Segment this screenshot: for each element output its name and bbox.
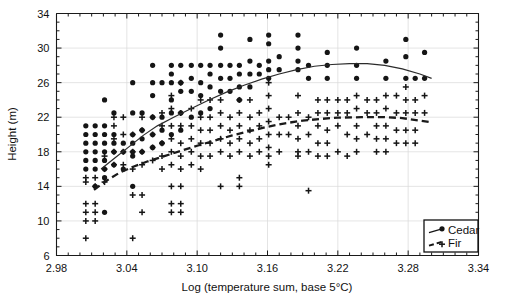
data-point-cedar	[247, 84, 252, 89]
data-point-cedar	[83, 166, 88, 171]
y-tick-label: 14	[37, 180, 49, 192]
data-point-cedar	[150, 80, 155, 85]
data-point-cedar	[383, 58, 388, 63]
data-point-cedar	[150, 63, 155, 68]
legend[interactable]: CedarFir	[424, 220, 479, 252]
data-point-cedar	[83, 123, 88, 128]
x-axis-title: Log (temperature sum, base 5°C)	[182, 281, 353, 293]
data-point-cedar	[422, 50, 427, 55]
y-tick-label: 6	[43, 250, 49, 262]
data-point-cedar	[227, 63, 232, 68]
data-point-cedar	[102, 123, 107, 128]
data-point-cedar	[237, 71, 242, 76]
data-point-cedar	[266, 58, 271, 63]
data-point-cedar	[325, 50, 330, 55]
data-point-cedar	[189, 115, 194, 120]
data-point-cedar	[266, 33, 271, 38]
y-tick-label: 26	[37, 77, 49, 89]
data-point-cedar	[306, 76, 311, 81]
data-point-cedar	[295, 33, 300, 38]
data-point-cedar	[266, 41, 271, 46]
legend-label-cedar: Cedar	[448, 224, 479, 236]
data-point-cedar	[83, 158, 88, 163]
y-tick-label: 10	[37, 215, 49, 227]
data-point-cedar	[354, 45, 359, 50]
data-point-cedar	[325, 76, 330, 81]
data-point-cedar	[93, 141, 98, 146]
data-point-cedar	[383, 76, 388, 81]
data-point-cedar	[207, 106, 212, 111]
data-point-cedar	[189, 89, 194, 94]
data-point-cedar	[218, 76, 223, 81]
data-point-cedar	[403, 37, 408, 42]
data-point-cedar	[295, 58, 300, 63]
data-point-cedar	[169, 80, 174, 85]
data-point-cedar	[257, 63, 262, 68]
data-point-cedar	[178, 89, 183, 94]
data-point-cedar	[207, 84, 212, 89]
data-point-cedar	[295, 45, 300, 50]
data-point-cedar	[198, 63, 203, 68]
data-point-cedar	[178, 63, 183, 68]
x-tick-label: 3.16	[257, 262, 278, 274]
x-tick-label: 3.22	[327, 262, 348, 274]
data-point-cedar	[150, 93, 155, 98]
data-point-cedar	[207, 71, 212, 76]
data-point-cedar	[277, 67, 282, 72]
data-point-cedar	[130, 110, 135, 115]
data-point-cedar	[169, 71, 174, 76]
y-tick-label: 34	[37, 8, 49, 20]
data-point-cedar	[257, 71, 262, 76]
data-point-cedar	[93, 123, 98, 128]
legend-label-fir: Fir	[448, 237, 462, 249]
x-tick-label: 3.34	[468, 262, 489, 274]
plot-background	[0, 0, 514, 302]
data-point-cedar	[266, 67, 271, 72]
data-point-cedar	[102, 97, 107, 102]
data-point-cedar	[277, 54, 282, 59]
data-point-cedar	[93, 149, 98, 154]
data-point-cedar	[218, 89, 223, 94]
data-point-cedar	[93, 132, 98, 137]
data-point-cedar	[354, 76, 359, 81]
x-tick-label: 2.98	[46, 262, 67, 274]
x-tick-label: 3.04	[116, 262, 137, 274]
y-tick-label: 30	[37, 42, 49, 54]
data-point-cedar	[247, 37, 252, 42]
y-tick-label: 18	[37, 146, 49, 158]
data-point-cedar	[198, 80, 203, 85]
legend-marker-cedar	[439, 226, 444, 231]
data-point-cedar	[247, 71, 252, 76]
data-point-cedar	[218, 45, 223, 50]
data-point-cedar	[102, 141, 107, 146]
data-point-cedar	[130, 184, 135, 189]
data-point-cedar	[218, 33, 223, 38]
data-point-cedar	[189, 63, 194, 68]
data-point-cedar	[102, 210, 107, 215]
data-point-cedar	[83, 141, 88, 146]
data-point-cedar	[83, 149, 88, 154]
x-tick-label: 3.28	[397, 262, 418, 274]
data-point-cedar	[102, 132, 107, 137]
chart-root: 2.983.043.103.163.223.283.34610141822263…	[0, 0, 514, 302]
x-tick-label: 3.10	[186, 262, 207, 274]
data-point-cedar	[189, 76, 194, 81]
scatter-plot: 2.983.043.103.163.223.283.34610141822263…	[0, 0, 514, 302]
data-point-cedar	[218, 63, 223, 68]
data-point-cedar	[403, 76, 408, 81]
data-point-cedar	[130, 80, 135, 85]
data-point-cedar	[413, 76, 418, 81]
y-axis-title: Height (m)	[6, 107, 18, 161]
data-point-cedar	[237, 63, 242, 68]
y-tick-label: 22	[37, 111, 49, 123]
data-point-cedar	[403, 54, 408, 59]
data-point-cedar	[83, 132, 88, 137]
data-point-cedar	[207, 63, 212, 68]
data-point-cedar	[169, 63, 174, 68]
data-point-cedar	[93, 158, 98, 163]
data-point-cedar	[159, 80, 164, 85]
data-point-cedar	[93, 166, 98, 171]
data-point-cedar	[121, 141, 126, 146]
data-point-cedar	[247, 58, 252, 63]
data-point-cedar	[227, 76, 232, 81]
